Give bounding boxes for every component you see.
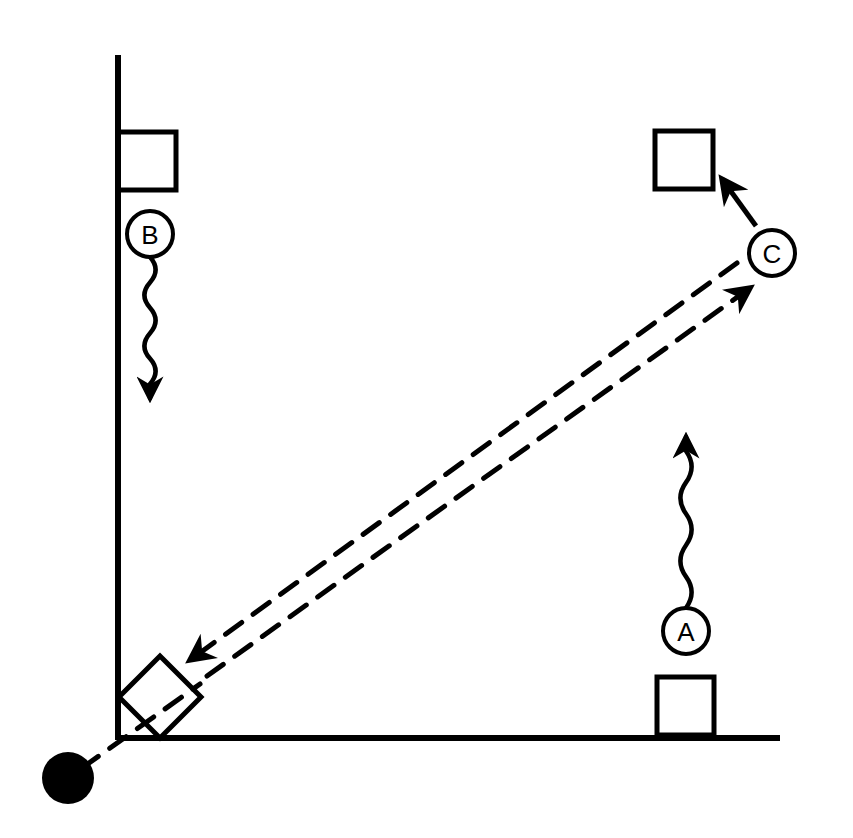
source-dot-circle xyxy=(42,752,94,804)
square-top-right xyxy=(655,131,713,189)
square-top-left xyxy=(118,132,176,190)
source-dot xyxy=(42,752,94,804)
label-letter: A xyxy=(677,617,695,647)
label-letter: B xyxy=(141,220,158,250)
diagram-canvas: BCA xyxy=(0,0,853,838)
label-A: A xyxy=(663,608,709,654)
wavy-arrows xyxy=(144,257,691,608)
label-letter: C xyxy=(763,239,782,269)
wave-from-B xyxy=(144,257,155,398)
dashed-down-left xyxy=(190,263,737,660)
straight-arrow xyxy=(722,179,756,226)
dashed-paths xyxy=(82,263,750,768)
diagram-svg: BCA xyxy=(0,0,853,838)
tilted-square-shape xyxy=(119,656,201,738)
circle-labels: BCA xyxy=(127,211,795,654)
dashed-source xyxy=(82,684,200,768)
tilted-square xyxy=(119,656,201,738)
label-B: B xyxy=(127,211,173,257)
wave-from-A xyxy=(680,437,691,608)
square-bottom-right xyxy=(657,677,714,735)
label-C: C xyxy=(749,230,795,276)
C-to-square xyxy=(722,179,756,226)
